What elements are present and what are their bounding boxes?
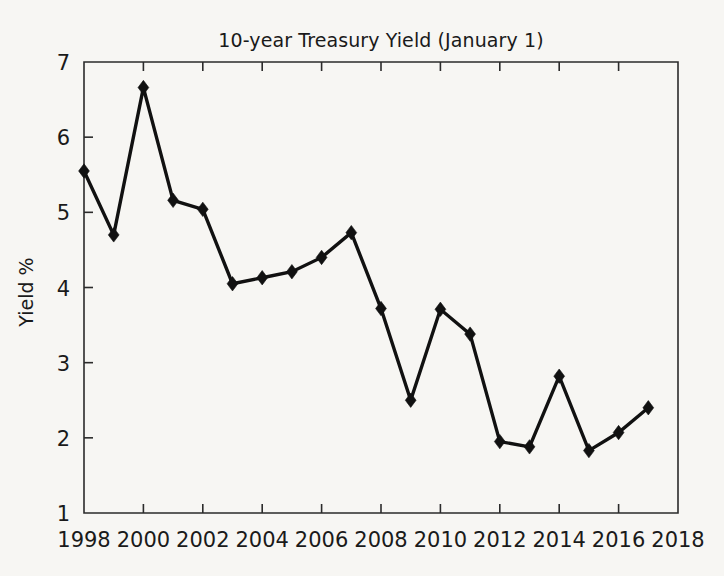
y-tick-label: 3 <box>57 352 70 376</box>
y-axis-label: Yield % <box>15 257 37 327</box>
x-tick-label: 2008 <box>354 528 407 552</box>
x-tick-label: 2010 <box>414 528 467 552</box>
y-tick-label: 1 <box>57 502 70 526</box>
chart-title: 10-year Treasury Yield (January 1) <box>218 29 543 51</box>
y-tick-label: 2 <box>57 427 70 451</box>
chart-container: 10-year Treasury Yield (January 1) Yield… <box>0 0 724 576</box>
x-tick-label: 2006 <box>295 528 348 552</box>
y-tick-label: 7 <box>57 51 70 75</box>
x-tick-label: 2018 <box>651 528 704 552</box>
x-tick-label: 2016 <box>592 528 645 552</box>
x-tick-label: 2014 <box>532 528 585 552</box>
x-tick-label: 2000 <box>117 528 170 552</box>
x-tick-label: 2012 <box>473 528 526 552</box>
y-tick-label: 6 <box>57 126 70 150</box>
x-tick-label: 2002 <box>176 528 229 552</box>
treasury-yield-line-chart: 10-year Treasury Yield (January 1) Yield… <box>0 0 724 576</box>
x-tick-label: 2004 <box>235 528 288 552</box>
y-tick-label: 4 <box>57 277 70 301</box>
x-tick-label: 1998 <box>57 528 110 552</box>
y-tick-label: 5 <box>57 201 70 225</box>
chart-background <box>0 0 724 576</box>
